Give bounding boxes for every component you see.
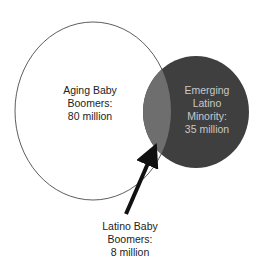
latino-baby-boomers-label: Latino Baby Boomers: 8 million	[85, 220, 175, 259]
emerging-latino-minority-label: Emerging Latino Minority: 35 million	[172, 84, 242, 136]
aging-baby-boomers-label: Aging Baby Boomers: 80 million	[45, 84, 135, 123]
